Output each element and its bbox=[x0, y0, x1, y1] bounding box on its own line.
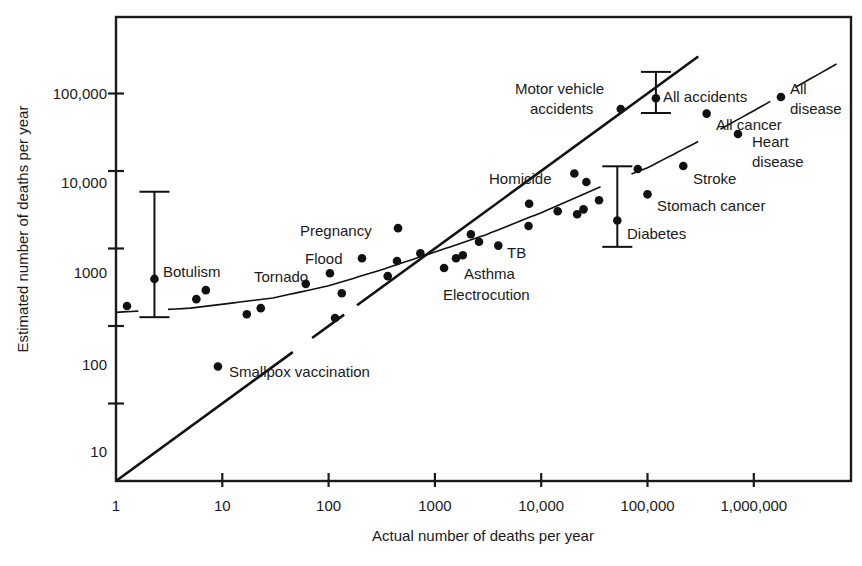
best-fit-curve-segment bbox=[168, 187, 601, 310]
x-tick-label: 1000 bbox=[418, 497, 451, 514]
data-point bbox=[679, 162, 688, 171]
point-label: All cancer bbox=[716, 116, 782, 133]
x-tick-label: 10,000 bbox=[518, 497, 564, 514]
data-point bbox=[383, 272, 392, 281]
risk-perception-chart: BotulismTornadoFloodPregnancySmallpox va… bbox=[0, 0, 862, 566]
point-label: disease bbox=[752, 153, 804, 170]
point-label: accidents bbox=[530, 100, 593, 117]
point-label: Botulism bbox=[163, 263, 221, 280]
data-point bbox=[202, 286, 211, 295]
data-point bbox=[579, 205, 588, 214]
data-point bbox=[192, 295, 201, 304]
data-point bbox=[570, 169, 579, 178]
data-point bbox=[633, 165, 642, 174]
x-tick-label: 10 bbox=[214, 497, 231, 514]
y-axis-ticks: 10100100010,000100,000 bbox=[53, 85, 124, 460]
data-point bbox=[331, 314, 340, 323]
y-tick-label: 10,000 bbox=[61, 174, 107, 191]
data-point bbox=[214, 362, 223, 371]
data-point bbox=[123, 302, 132, 311]
point-label: Flood bbox=[305, 250, 343, 267]
data-point bbox=[616, 105, 625, 114]
point-label: disease bbox=[790, 100, 842, 117]
data-point bbox=[524, 222, 533, 231]
data-point bbox=[358, 254, 367, 263]
x-tick-label: 100 bbox=[316, 497, 341, 514]
data-point bbox=[256, 304, 265, 313]
data-point bbox=[525, 199, 534, 208]
x-tick-label: 1,000,000 bbox=[720, 497, 787, 514]
data-point bbox=[702, 109, 711, 118]
data-point bbox=[643, 190, 652, 199]
y-tick-label: 1000 bbox=[74, 264, 107, 281]
data-point bbox=[242, 310, 251, 319]
y-tick-label: 10 bbox=[90, 443, 107, 460]
data-point bbox=[416, 249, 425, 258]
point-label: Motor vehicle bbox=[515, 80, 604, 97]
point-label: Heart bbox=[752, 133, 790, 150]
data-point bbox=[613, 216, 622, 225]
y-axis-title: Estimated number of deaths per year bbox=[14, 106, 31, 353]
data-point bbox=[652, 94, 661, 103]
data-point bbox=[393, 257, 402, 266]
data-point bbox=[777, 93, 786, 102]
y-tick-label: 100,000 bbox=[53, 85, 107, 102]
point-label: All bbox=[790, 80, 807, 97]
data-point bbox=[440, 264, 449, 273]
data-point bbox=[494, 241, 503, 250]
data-point bbox=[467, 230, 476, 239]
x-tick-label: 1 bbox=[112, 497, 120, 514]
point-label: Asthma bbox=[464, 265, 516, 282]
data-point bbox=[337, 289, 346, 298]
point-label: Smallpox vaccination bbox=[229, 363, 370, 380]
point-label: All accidents bbox=[663, 88, 747, 105]
data-point bbox=[595, 196, 604, 205]
point-label: Diabetes bbox=[627, 225, 686, 242]
data-point bbox=[326, 269, 335, 278]
point-label: Stroke bbox=[693, 170, 736, 187]
x-axis-ticks: 110100100010,000100,0001,000,000 bbox=[112, 473, 787, 514]
y-tick-label: 100 bbox=[82, 356, 107, 373]
data-point bbox=[394, 224, 403, 233]
data-point bbox=[475, 238, 484, 247]
data-point bbox=[553, 207, 562, 216]
x-axis-title: Actual number of deaths per year bbox=[372, 527, 594, 544]
point-label: Stomach cancer bbox=[657, 197, 765, 214]
data-point bbox=[150, 275, 159, 284]
point-label: Electrocution bbox=[443, 286, 530, 303]
best-fit-curve-segment bbox=[116, 311, 138, 312]
point-label: Pregnancy bbox=[300, 222, 372, 239]
plot-frame bbox=[116, 17, 851, 481]
x-tick-label: 100,000 bbox=[620, 497, 674, 514]
point-label: Homicide bbox=[489, 170, 552, 187]
point-annotations: BotulismTornadoFloodPregnancySmallpox va… bbox=[163, 80, 842, 380]
point-label: Tornado bbox=[254, 268, 308, 285]
data-point bbox=[582, 178, 591, 187]
point-label: TB bbox=[507, 244, 526, 261]
data-point bbox=[458, 251, 467, 260]
